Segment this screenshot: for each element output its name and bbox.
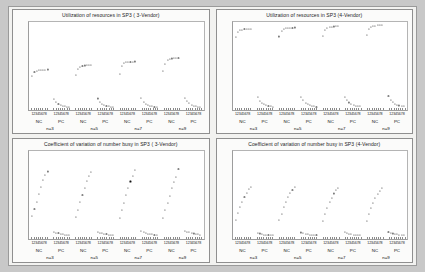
data-point — [78, 209, 79, 210]
x-axis-tick-mark — [197, 108, 198, 110]
data-point — [97, 98, 98, 99]
data-point — [244, 196, 245, 197]
x-axis-group-label: n=3 — [250, 254, 257, 262]
data-point — [132, 176, 133, 177]
data-point — [169, 59, 170, 60]
data-point — [292, 27, 293, 28]
data-point — [152, 106, 153, 107]
x-axis-tick-mark — [330, 237, 331, 239]
x-axis-tick-mark — [292, 237, 293, 239]
x-axis-tick-labels: 12345678 — [257, 111, 272, 117]
x-axis-tick-mark — [148, 108, 149, 110]
x-axis-group-row: n=3n=5n=7n=9 — [232, 254, 409, 262]
x-axis-tick-mark — [250, 108, 251, 110]
x-axis-tick-mark — [354, 237, 355, 239]
data-point — [43, 69, 44, 70]
data-point — [279, 36, 280, 37]
data-point — [388, 231, 389, 232]
data-point — [290, 193, 291, 194]
x-axis-tick-labels: 12345678 — [76, 111, 91, 117]
x-axis-subgroup-label: NC — [124, 247, 130, 254]
data-point — [130, 61, 131, 62]
plot-area: 0.00.10.20.30.40.50.60.70.8 — [232, 21, 409, 111]
data-point — [303, 100, 304, 101]
x-axis-tick-labels: 12345678 — [345, 111, 360, 117]
x-axis-tick-mark — [400, 108, 401, 110]
data-point — [58, 103, 59, 104]
x-axis-subgroup-label: PC — [190, 247, 196, 254]
data-point — [357, 235, 358, 236]
data-point — [301, 96, 302, 97]
x-axis-tick-mark — [332, 237, 333, 239]
x-axis-tick-mark — [104, 237, 105, 239]
data-point — [150, 105, 151, 106]
panel-inner: Coefficient of variation of number busy … — [216, 138, 414, 263]
x-axis-tick-labels: 12345678 — [164, 111, 179, 117]
x-axis-group-row: n=3n=5n=7n=9 — [28, 125, 205, 133]
data-point — [86, 65, 87, 66]
x-axis-tick-mark — [336, 108, 337, 110]
x-axis-tick-row: 1234567812345678123456781234567812345678… — [28, 240, 205, 247]
x-axis: 1234567812345678123456781234567812345678… — [28, 240, 205, 262]
data-point — [171, 58, 172, 59]
y-axis-tick-mark — [232, 22, 233, 23]
x-axis-tick-mark — [356, 237, 357, 239]
data-point — [281, 213, 282, 214]
data-point — [112, 235, 113, 236]
x-axis-tick-mark — [135, 237, 136, 239]
data-point — [176, 58, 177, 59]
data-point — [67, 235, 68, 236]
x-axis-subgroup-row: NCPCNCPCNCPCNCPC — [28, 118, 205, 125]
x-axis-tick-labels: 12345678 — [389, 240, 404, 246]
x-axis-tick-mark — [91, 237, 92, 239]
data-point — [283, 28, 284, 29]
data-point — [62, 234, 63, 235]
x-axis-tick-mark — [376, 108, 377, 110]
x-axis-tick-labels: 12345678 — [186, 240, 201, 246]
data-point — [141, 231, 142, 232]
x-axis-tick-mark — [314, 108, 315, 110]
data-point — [307, 104, 308, 105]
x-axis-tick-labels: 12345678 — [142, 111, 157, 117]
x-axis-group-label: n=5 — [90, 254, 97, 262]
data-point — [62, 105, 63, 106]
x-axis-tick-mark — [239, 108, 240, 110]
data-point — [307, 234, 308, 235]
data-point — [309, 234, 310, 235]
x-axis-tick-mark — [64, 237, 65, 239]
x-axis-tick-labels: 12345678 — [98, 111, 113, 117]
panel-cv-3-vendor: Coefficient of variation of number busy … — [9, 136, 213, 265]
x-axis-tick-mark — [380, 237, 381, 239]
data-point — [154, 234, 155, 235]
data-point — [123, 63, 124, 64]
data-point — [248, 29, 249, 30]
x-axis-tick-mark — [290, 108, 291, 110]
data-point — [163, 218, 164, 219]
x-axis-tick-mark — [244, 108, 245, 110]
data-point — [360, 235, 361, 236]
data-point — [45, 69, 46, 70]
data-point — [47, 69, 48, 70]
data-point — [45, 175, 46, 176]
x-axis-tick-mark — [56, 108, 57, 110]
data-point — [370, 26, 371, 27]
data-point — [401, 106, 402, 107]
data-point — [75, 74, 76, 75]
data-point — [303, 233, 304, 234]
data-point — [184, 230, 185, 231]
data-point — [290, 27, 291, 28]
x-axis-tick-mark — [47, 108, 48, 110]
data-point — [82, 194, 83, 195]
x-axis-subgroup-label: PC — [58, 118, 64, 125]
data-point — [390, 99, 391, 100]
y-axis-tick-mark — [28, 99, 29, 100]
data-point — [309, 105, 310, 106]
panel-inner: Utilization of resources in SP3 ( 3-Vend… — [12, 9, 210, 134]
x-axis-tick-mark — [350, 237, 351, 239]
x-axis-tick-mark — [405, 108, 406, 110]
plot-area: 0123456 — [232, 150, 409, 240]
x-axis-tick-mark — [268, 108, 269, 110]
x-axis-tick-mark — [281, 237, 282, 239]
data-point — [106, 105, 107, 106]
data-point — [329, 27, 330, 28]
